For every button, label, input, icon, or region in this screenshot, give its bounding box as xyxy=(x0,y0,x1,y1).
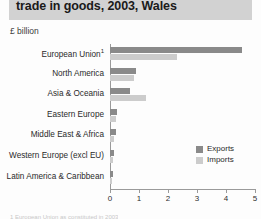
category-label: Middle East & Africa xyxy=(31,130,104,139)
legend-swatch-exports xyxy=(196,146,203,153)
x-tick-3 xyxy=(197,189,198,193)
bar-group-row: European Union1 xyxy=(0,44,261,64)
category-label: European Union1 xyxy=(41,48,104,59)
bar-group-row: Asia & Oceania xyxy=(0,85,261,105)
category-label: Latin America & Caribbean xyxy=(7,172,104,181)
footnote: 1 European Union as constituted in 2003 xyxy=(10,214,118,219)
bar-exports xyxy=(110,171,113,177)
x-tick-label-1: 1 xyxy=(137,194,141,203)
x-tick-1 xyxy=(139,189,140,193)
bar-imports xyxy=(110,136,114,142)
category-label: Eastern Europe xyxy=(47,110,104,119)
x-tick-2 xyxy=(168,189,169,193)
legend-label-exports: Exports xyxy=(207,144,234,153)
bar-imports xyxy=(110,75,134,81)
page-title: trade in goods, 2003, Wales xyxy=(16,0,177,13)
x-axis-line xyxy=(110,189,256,190)
x-tick-label-0: 0 xyxy=(108,194,112,203)
x-tick-0 xyxy=(110,189,111,193)
x-tick-label-2: 2 xyxy=(166,194,170,203)
legend-label-imports: Imports xyxy=(207,155,234,164)
x-tick-label-4: 4 xyxy=(224,194,228,203)
bar-group-row: Latin America & Caribbean xyxy=(0,168,261,188)
bar-imports xyxy=(110,116,116,122)
title-band: trade in goods, 2003, Wales xyxy=(9,0,252,20)
chart-figure: trade in goods, 2003, Wales £ billion 01… xyxy=(0,0,261,219)
x-tick-5 xyxy=(255,189,256,193)
bar-exports xyxy=(110,47,242,53)
bar-exports xyxy=(110,150,114,156)
category-label: Asia & Oceania xyxy=(48,89,104,98)
bar-imports xyxy=(110,54,177,60)
bar-group-row: North America xyxy=(0,65,261,85)
category-label: North America xyxy=(52,69,104,78)
bar-group-row: Eastern Europe xyxy=(0,106,261,126)
x-tick-label-3: 3 xyxy=(195,194,199,203)
bar-imports xyxy=(110,178,112,184)
bar-exports xyxy=(110,109,117,115)
bar-exports xyxy=(110,88,130,94)
bar-exports xyxy=(110,68,136,74)
x-tick-4 xyxy=(226,189,227,193)
bar-exports xyxy=(110,129,116,135)
bar-imports xyxy=(110,95,146,101)
category-label: Western Europe (excl EU) xyxy=(9,151,104,160)
x-tick-label-5: 5 xyxy=(253,194,257,203)
units-label: £ billion xyxy=(10,26,39,36)
legend-swatch-imports xyxy=(196,157,203,164)
bar-imports xyxy=(110,157,113,163)
